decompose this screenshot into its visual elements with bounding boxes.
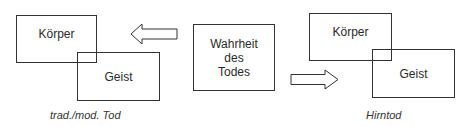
- left-mind-label: Geist: [104, 70, 132, 84]
- center-line-3: Todes: [218, 65, 250, 79]
- truth-of-death-box: Wahrheit des Todes: [193, 24, 275, 91]
- right-mind-label: Geist: [399, 67, 427, 81]
- right-caption: Hirntod: [366, 109, 401, 121]
- left-caption: trad./mod. Tod: [50, 109, 121, 121]
- left-mind-box: Geist: [77, 52, 160, 101]
- arrow-right-icon: [290, 69, 339, 90]
- left-body-label: Körper: [38, 27, 74, 41]
- arrow-left-icon: [130, 23, 178, 45]
- right-body-label: Körper: [332, 25, 368, 39]
- right-mind-box: Geist: [372, 49, 455, 98]
- center-line-1: Wahrheit: [210, 37, 258, 51]
- center-line-2: des: [224, 51, 243, 65]
